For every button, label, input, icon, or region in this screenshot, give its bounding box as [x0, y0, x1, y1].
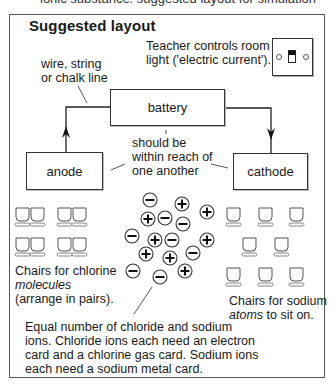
cathode-box: cathode [233, 153, 308, 190]
wire-pointer-line [78, 86, 87, 103]
chloride-ion-minus-icon [126, 264, 140, 278]
sodium-ion-plus-icon [139, 247, 153, 261]
chloride-ion-minus-icon [186, 246, 200, 260]
sodium-ion-plus-icon [163, 251, 177, 265]
sodium-chairs-label: Chairs for sodium atoms to sit on. [229, 294, 327, 322]
sodium-chair-icon [258, 268, 273, 286]
chlorine-chair-icon [72, 208, 87, 226]
reach-note-line2: within reach of [132, 150, 213, 164]
chloride-ion-minus-icon [143, 193, 157, 207]
sodium-label-line1: Chairs for sodium [229, 294, 327, 308]
ions-note-line2: ions. Chloride ions each need an electro… [25, 334, 258, 348]
chlorine-chair-icon [30, 238, 45, 256]
sodium-chair-icon [258, 208, 273, 226]
anode-box: anode [26, 152, 103, 190]
sodium-chair-icon [226, 268, 241, 286]
chlorine-chair-icon [72, 238, 87, 256]
chlorine-chair-icon [15, 208, 30, 226]
sodium-ion-plus-icon [178, 264, 192, 278]
ions-group [125, 193, 214, 284]
sodium-chair-icon [226, 208, 241, 226]
sodium-ion-plus-icon [200, 233, 214, 247]
chloride-ion-minus-icon [158, 211, 172, 225]
sodium-ion-plus-icon [148, 233, 162, 247]
sodium-chair-icon [242, 238, 257, 256]
chlorine-chairs-group [15, 208, 87, 256]
chlorine-label-italic: molecules [15, 278, 71, 292]
chlorine-chair-icon [57, 208, 72, 226]
chlorine-label-line3: (arrange in pairs). [15, 292, 116, 306]
reach-note: should be within reach of one another [132, 136, 213, 178]
ions-note-line1: Equal number of chloride and sodium [25, 320, 258, 334]
battery-box: battery [110, 89, 225, 126]
chlorine-chair-icon [57, 238, 72, 256]
chloride-ion-minus-icon [125, 229, 139, 243]
ions-pointer-line [134, 287, 152, 314]
reach-note-line1: should be [132, 136, 213, 150]
ions-note: Equal number of chloride and sodium ions… [25, 320, 258, 376]
chloride-ion-minus-icon [165, 233, 179, 247]
sodium-ion-plus-icon [175, 197, 189, 211]
chloride-ion-minus-icon [153, 270, 167, 284]
chlorine-chairs-label: Chairs for chlorine molecules (arrange i… [15, 264, 116, 306]
anode-pointer-line [111, 164, 125, 170]
chlorine-label-line1: Chairs for chlorine [15, 264, 116, 278]
sodium-ion-plus-icon [200, 205, 214, 219]
sodium-chair-icon [289, 268, 304, 286]
wire-to-anode [66, 107, 110, 152]
cathode-pointer-line [211, 164, 228, 168]
sodium-chairs-group [226, 208, 304, 286]
sodium-chair-icon [274, 238, 289, 256]
sodium-label-rest: to sit on. [263, 308, 314, 322]
wire-to-cathode [225, 108, 271, 153]
ions-note-line3: card and a chlorine gas card. Sodium ion… [25, 348, 258, 362]
ions-note-line4: each need a sodium metal card. [25, 362, 258, 376]
reach-note-line3: one another [132, 164, 213, 178]
chloride-ion-minus-icon [176, 217, 190, 231]
sodium-chair-icon [289, 208, 304, 226]
sodium-ion-plus-icon [141, 212, 155, 226]
chlorine-chair-icon [15, 238, 30, 256]
chlorine-chair-icon [30, 208, 45, 226]
